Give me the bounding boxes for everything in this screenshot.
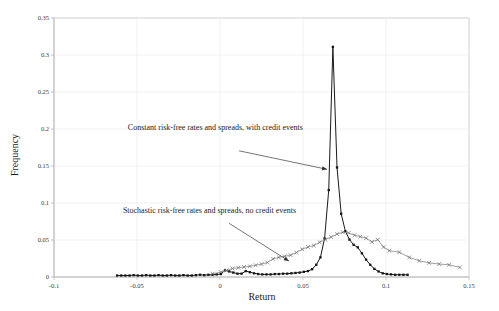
data-point-marker — [162, 274, 164, 276]
data-point-marker — [265, 273, 267, 275]
data-point-marker — [373, 268, 375, 270]
data-point-marker — [133, 274, 135, 276]
data-point-marker — [369, 264, 371, 266]
data-point-marker — [365, 258, 367, 260]
data-point-marker — [406, 274, 408, 276]
data-point-marker — [402, 274, 404, 276]
chart-container: -0.1-0.0500.050.10.15 00.050.10.150.20.2… — [0, 0, 499, 311]
data-point-marker — [299, 271, 301, 273]
x-axis-title: Return — [248, 291, 275, 302]
data-point-marker — [261, 273, 263, 275]
data-point-marker — [236, 273, 238, 275]
data-point-marker — [394, 274, 396, 276]
data-point-marker — [357, 246, 359, 248]
data-point-marker — [170, 274, 172, 276]
y-tick-label: 0.2 — [41, 125, 49, 132]
data-point-marker — [166, 274, 168, 276]
x-tick-label: 0.05 — [297, 282, 308, 289]
data-point-marker — [153, 274, 155, 276]
frequency-distribution-chart: -0.1-0.0500.050.10.15 00.050.10.150.20.2… — [0, 0, 499, 311]
data-point-marker — [145, 274, 147, 276]
data-point-marker — [361, 252, 363, 254]
data-point-marker — [315, 264, 317, 266]
data-point-marker — [319, 256, 321, 258]
data-point-marker — [137, 274, 139, 276]
data-point-marker — [311, 268, 313, 270]
x-tick-label: 0 — [218, 282, 221, 289]
data-point-marker — [348, 238, 350, 240]
data-point-marker — [274, 273, 276, 275]
data-point-marker — [232, 271, 234, 273]
data-point-marker — [307, 270, 309, 272]
data-point-marker — [149, 274, 151, 276]
data-point-marker — [278, 273, 280, 275]
data-point-marker — [216, 273, 218, 275]
data-point-marker — [191, 274, 193, 276]
y-tick-label: 0.1 — [41, 199, 49, 206]
y-tick-label: 0 — [46, 273, 49, 280]
y-tick-label: 0.35 — [38, 14, 49, 21]
data-point-marker — [141, 274, 143, 276]
data-point-marker — [398, 274, 400, 276]
x-tick-label: -0.05 — [130, 282, 144, 289]
data-point-marker — [203, 274, 205, 276]
data-point-marker — [352, 244, 354, 246]
data-point-marker — [377, 270, 379, 272]
data-point-marker — [303, 271, 305, 273]
data-point-marker — [328, 189, 330, 191]
data-point-marker — [207, 274, 209, 276]
data-point-marker — [124, 274, 126, 276]
data-point-marker — [332, 46, 334, 48]
y-tick-label: 0.25 — [38, 88, 49, 95]
data-point-marker — [199, 274, 201, 276]
annotation-stochastic-text: Stochastic risk-free rates and spreads, … — [123, 206, 296, 215]
data-point-marker — [116, 274, 118, 276]
data-point-marker — [178, 274, 180, 276]
data-point-marker — [253, 272, 255, 274]
data-point-marker — [174, 274, 176, 276]
data-point-marker — [340, 213, 342, 215]
data-point-marker — [336, 166, 338, 168]
data-point-marker — [290, 272, 292, 274]
data-point-marker — [257, 273, 259, 275]
y-axis-title: Frequency — [9, 134, 20, 176]
data-point-marker — [240, 273, 242, 275]
data-point-marker — [390, 273, 392, 275]
data-point-marker — [157, 274, 159, 276]
data-point-marker — [294, 272, 296, 274]
data-point-marker — [382, 272, 384, 274]
x-tick-label: -0.1 — [49, 282, 59, 289]
data-point-marker — [182, 274, 184, 276]
data-point-marker — [386, 273, 388, 275]
data-point-marker — [120, 274, 122, 276]
annotation-constant-text: Constant risk-free rates and spreads, wi… — [128, 123, 303, 132]
data-point-marker — [269, 273, 271, 275]
x-tick-label: 0.1 — [382, 282, 390, 289]
x-tick-label: 0.15 — [463, 282, 474, 289]
data-point-marker — [286, 273, 288, 275]
data-point-marker — [186, 274, 188, 276]
data-point-marker — [249, 271, 251, 273]
y-tick-label: 0.05 — [38, 236, 49, 243]
chart-background — [0, 0, 499, 311]
data-point-marker — [245, 270, 247, 272]
data-point-marker — [128, 274, 130, 276]
data-point-marker — [195, 274, 197, 276]
y-tick-label: 0.15 — [38, 162, 49, 169]
data-point-marker — [282, 273, 284, 275]
y-tick-label: 0.3 — [41, 51, 49, 58]
